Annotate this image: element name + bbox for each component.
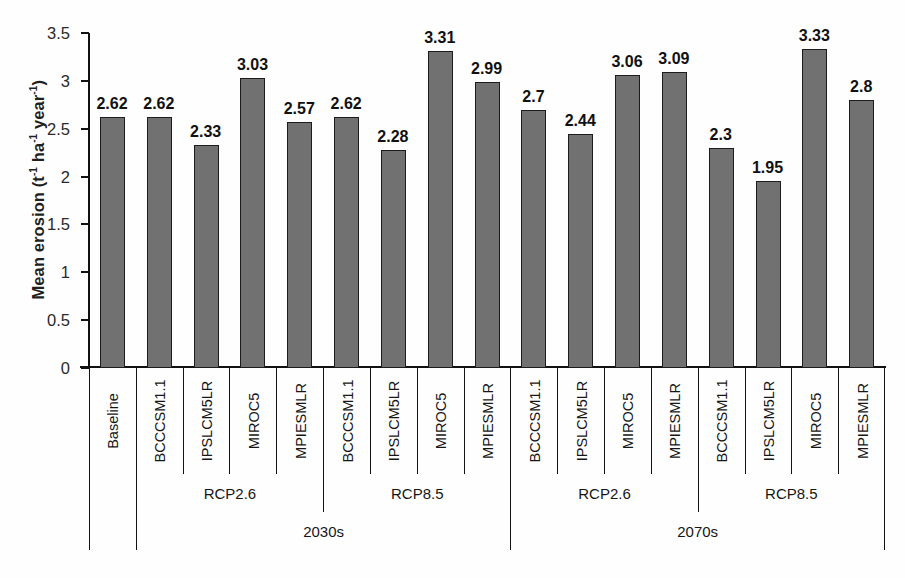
bar[interactable] bbox=[568, 134, 593, 368]
x-axis-category-label: IPSLCM5LR bbox=[199, 381, 215, 462]
bar[interactable] bbox=[287, 122, 312, 368]
x-axis-category-cell: IPSLCM5LR bbox=[183, 368, 230, 474]
y-axis-tick-label: 3 bbox=[24, 71, 70, 90]
bar-slot: 3.33 bbox=[791, 33, 838, 368]
bar-value-label: 2.62 bbox=[135, 95, 183, 113]
x-axis-scenario-group bbox=[89, 474, 136, 512]
bar[interactable] bbox=[194, 145, 219, 368]
bar-slot: 2.7 bbox=[510, 33, 557, 368]
x-axis-category-label: Baseline bbox=[105, 393, 121, 449]
x-axis-category-cell: MIROC5 bbox=[604, 368, 651, 474]
y-axis-tick-mark bbox=[81, 223, 89, 225]
bar-chart-figure: Mean erosion (t-1 ha-1 year-1) 3.532.521… bbox=[0, 0, 905, 578]
bar-slot: 2.8 bbox=[838, 33, 885, 368]
bar-slot: 2.33 bbox=[183, 33, 230, 368]
x-axis-scenario-group: RCP8.5 bbox=[323, 474, 510, 512]
bar-value-label: 3.31 bbox=[416, 29, 464, 47]
x-axis-category-cell: MIROC5 bbox=[791, 368, 838, 474]
bar-value-label: 3.03 bbox=[228, 56, 276, 74]
bar-value-label: 3.06 bbox=[603, 53, 651, 71]
x-axis-scenario-group-label: RCP8.5 bbox=[765, 485, 818, 502]
bar-slot: 2.28 bbox=[370, 33, 417, 368]
bar-value-label: 2.44 bbox=[556, 112, 604, 130]
bar-value-label: 3.33 bbox=[790, 27, 838, 45]
x-axis-category-cell: MPIESMLR bbox=[464, 368, 511, 474]
bar[interactable] bbox=[147, 117, 172, 368]
x-axis-category-label: MPIESMLR bbox=[480, 383, 496, 459]
x-axis-category-cell: MIROC5 bbox=[417, 368, 464, 474]
x-axis-category-cell: MPIESMLR bbox=[651, 368, 698, 474]
x-axis-category-label: MIROC5 bbox=[808, 393, 824, 449]
x-axis-category-label-wrap: MIROC5 bbox=[792, 368, 839, 474]
x-axis-scenario-groups: RCP2.6RCP8.5RCP2.6RCP8.5 bbox=[89, 474, 885, 512]
bar[interactable] bbox=[849, 100, 874, 368]
x-axis-scenario-group: RCP2.6 bbox=[510, 474, 697, 512]
x-axis-scenario-group-label: RCP2.6 bbox=[578, 485, 631, 502]
x-axis-category-cell: IPSLCM5LR bbox=[745, 368, 792, 474]
x-axis-category-label-wrap: IPSLCM5LR bbox=[746, 368, 793, 474]
bar[interactable] bbox=[381, 150, 406, 368]
x-axis-category-cell: IPSLCM5LR bbox=[557, 368, 604, 474]
x-axis-period-group: 2070s bbox=[510, 512, 885, 550]
x-axis-category-label-wrap: Baseline bbox=[90, 368, 137, 474]
bar[interactable] bbox=[709, 148, 734, 368]
x-axis-category-label-wrap: MIROC5 bbox=[230, 368, 277, 474]
bar-slot: 3.09 bbox=[651, 33, 698, 368]
y-axis-tick-label: 2 bbox=[24, 167, 70, 186]
x-axis-category-label: MIROC5 bbox=[620, 393, 636, 449]
x-axis-category-label: BCCCSM1.1 bbox=[714, 380, 730, 463]
y-axis-tick-label: 1.5 bbox=[24, 215, 70, 234]
bar[interactable] bbox=[802, 49, 827, 368]
bar-value-label: 1.95 bbox=[744, 159, 792, 177]
bar-slot: 2.62 bbox=[89, 33, 136, 368]
x-axis-period-groups: 2030s2070s bbox=[89, 512, 885, 550]
y-axis-tick-mark bbox=[81, 128, 89, 130]
x-axis-category-labels: BaselineBCCCSM1.1IPSLCM5LRMIROC5MPIESMLR… bbox=[89, 368, 885, 474]
bar-value-label: 2.62 bbox=[88, 95, 136, 113]
bar-slot: 2.57 bbox=[276, 33, 323, 368]
bar[interactable] bbox=[521, 110, 546, 368]
y-axis-tick-labels: 3.532.521.510.50 bbox=[24, 0, 70, 578]
x-axis-scenario-group: RCP8.5 bbox=[698, 474, 885, 512]
x-axis-category-cell: BCCCSM1.1 bbox=[698, 368, 745, 474]
bar[interactable] bbox=[662, 72, 687, 368]
bar-slot: 2.62 bbox=[136, 33, 183, 368]
bar[interactable] bbox=[334, 117, 359, 368]
x-axis-category-label: MIROC5 bbox=[433, 393, 449, 449]
bar-slot: 2.44 bbox=[557, 33, 604, 368]
y-axis-tick-mark bbox=[81, 32, 89, 34]
x-axis-category-label-wrap: MPIESMLR bbox=[277, 368, 324, 474]
x-axis-category-label-wrap: IPSLCM5LR bbox=[558, 368, 605, 474]
y-axis-tick-mark bbox=[81, 176, 89, 178]
bar-value-label: 2.33 bbox=[182, 123, 230, 141]
bar[interactable] bbox=[615, 75, 640, 368]
bar[interactable] bbox=[756, 181, 781, 368]
x-axis-category-cell: MIROC5 bbox=[229, 368, 276, 474]
x-axis-category-label: MPIESMLR bbox=[293, 383, 309, 459]
x-axis-period-group-label: 2030s bbox=[303, 523, 344, 540]
y-axis-tick-mark bbox=[81, 271, 89, 273]
bar-slot: 3.03 bbox=[229, 33, 276, 368]
x-axis-category-cell: BCCCSM1.1 bbox=[510, 368, 557, 474]
x-axis-category-cell: BCCCSM1.1 bbox=[136, 368, 183, 474]
x-axis-category-label-wrap: BCCCSM1.1 bbox=[137, 368, 184, 474]
plot-area: 2.622.622.333.032.572.622.283.312.992.72… bbox=[89, 33, 885, 368]
x-axis-category-cell: Baseline bbox=[89, 368, 136, 474]
x-axis-category-cell: MPIESMLR bbox=[838, 368, 885, 474]
x-axis-category-label: MPIESMLR bbox=[855, 383, 871, 459]
y-axis-tick-label: 0.5 bbox=[24, 311, 70, 330]
x-axis-period-group: 2030s bbox=[136, 512, 511, 550]
bar[interactable] bbox=[475, 82, 500, 368]
x-axis-category-label-wrap: MIROC5 bbox=[605, 368, 652, 474]
x-axis-category-cell: IPSLCM5LR bbox=[370, 368, 417, 474]
bar[interactable] bbox=[240, 78, 265, 368]
bar[interactable] bbox=[100, 117, 125, 368]
x-axis-category-label-wrap: MPIESMLR bbox=[465, 368, 512, 474]
x-axis-category-label-wrap: BCCCSM1.1 bbox=[699, 368, 746, 474]
bar-slot: 3.06 bbox=[604, 33, 651, 368]
x-axis-category-label-wrap: IPSLCM5LR bbox=[371, 368, 418, 474]
bar-value-label: 2.3 bbox=[697, 126, 745, 144]
bar-value-label: 2.99 bbox=[463, 60, 511, 78]
bar-slot: 3.31 bbox=[417, 33, 464, 368]
bar[interactable] bbox=[428, 51, 453, 368]
